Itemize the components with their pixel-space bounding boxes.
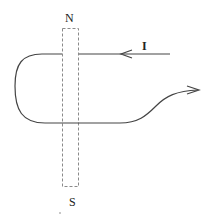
stray-dot bbox=[59, 212, 60, 213]
wire-loop bbox=[15, 54, 198, 123]
north-pole-label: N bbox=[65, 11, 74, 25]
current-label: I bbox=[142, 39, 147, 53]
magnet-bar bbox=[63, 29, 79, 187]
diagram-canvas: N I S bbox=[0, 0, 210, 220]
south-pole-label: S bbox=[69, 195, 76, 209]
